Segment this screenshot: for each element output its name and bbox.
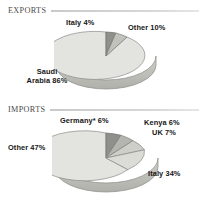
imports-label-uk: UK 7% bbox=[152, 129, 176, 138]
exports-heading-rule bbox=[51, 10, 199, 12]
imports-label-italy: Italy 34% bbox=[148, 170, 181, 179]
imports-section-header: IMPORTS bbox=[8, 104, 199, 115]
exports-label-italy: Italy 4% bbox=[66, 19, 94, 28]
imports-pie-chart bbox=[52, 126, 160, 196]
exports-label-saudi-arabia: Saudi Arabia 86% bbox=[16, 68, 78, 85]
exports-heading: EXPORTS bbox=[8, 6, 46, 15]
imports-label-other: Other 47% bbox=[8, 144, 45, 153]
exports-label-saudi-line2: Arabia 86% bbox=[27, 76, 68, 85]
imports-label-germany: Germany* 6% bbox=[60, 117, 109, 126]
imports-label-kenya: Kenya 6% bbox=[144, 119, 180, 128]
exports-chart-block: EXPORTS Italy 4% Other 10% Saudi Ar bbox=[0, 0, 207, 100]
imports-heading: IMPORTS bbox=[8, 105, 45, 114]
exports-section-header: EXPORTS bbox=[8, 5, 199, 16]
infographic-root: EXPORTS Italy 4% Other 10% Saudi Ar bbox=[0, 0, 207, 200]
imports-heading-rule bbox=[50, 109, 199, 111]
exports-label-other: Other 10% bbox=[128, 24, 165, 33]
